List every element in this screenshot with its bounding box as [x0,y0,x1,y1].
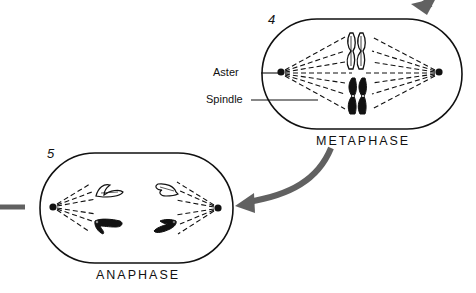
anaphase-spindle-right [176,182,214,234]
metaphase-spindle-right [366,37,435,109]
anaphase-right-aster [214,204,221,211]
metaphase-spindle-left [285,37,352,109]
metaphase-right-aster [435,68,442,75]
anaphase-chromosome-left-black [95,219,122,234]
anaphase-chromosome-right-black [154,220,176,233]
aster-label: Aster [213,66,239,78]
metaphase-to-anaphase-arrow [235,148,331,213]
anaphase-chromosome-left-white [96,185,123,197]
anaphase-left-aster [49,203,56,210]
anaphase-stage-number: 5 [47,146,54,161]
spindle-label: Spindle [206,93,243,105]
metaphase-cell [251,19,462,129]
metaphase-chromosomes-lower [348,78,366,114]
incoming-arrow [411,0,436,15]
metaphase-title: METAPHASE [316,134,410,148]
metaphase-chromosomes-upper [347,33,365,69]
mitosis-diagram: 4 METAPHASE Aster Spindle 5 ANAPHASE [0,0,476,293]
anaphase-cell [40,153,233,263]
anaphase-chromosome-right-white [156,184,178,196]
anaphase-title: ANAPHASE [96,268,180,282]
metaphase-left-aster [277,68,284,75]
metaphase-stage-number: 4 [268,12,275,27]
anaphase-spindle-left [57,184,96,232]
